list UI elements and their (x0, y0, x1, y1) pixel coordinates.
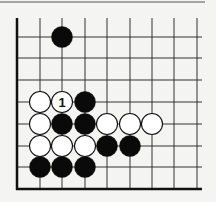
black-stone-icon (75, 92, 96, 113)
white-stone-icon (120, 114, 141, 135)
white-stone-icon (97, 114, 118, 135)
white-stone-icon (30, 114, 51, 135)
white-stone-numbered: 1 (52, 92, 73, 113)
white-stone-icon (75, 136, 96, 157)
black-stone (75, 114, 96, 135)
white-stone (52, 136, 73, 157)
white-stone-icon (52, 136, 73, 157)
black-stone (52, 114, 73, 135)
black-stone-icon (52, 27, 73, 48)
black-stone-icon (52, 114, 73, 135)
white-stone (30, 114, 51, 135)
black-stone (30, 157, 51, 178)
move-number-label: 1 (58, 95, 65, 110)
black-stone-icon (75, 157, 96, 178)
black-stone (52, 27, 73, 48)
white-stone (30, 136, 51, 157)
white-stone-icon (30, 136, 51, 157)
black-stone (120, 136, 141, 157)
white-stone-icon (30, 92, 51, 113)
black-stone (75, 157, 96, 178)
white-stone (97, 114, 118, 135)
black-stone (97, 136, 118, 157)
white-stone (120, 114, 141, 135)
black-stone-icon (30, 157, 51, 178)
black-stone-icon (75, 114, 96, 135)
white-stone (30, 92, 51, 113)
black-stone (75, 92, 96, 113)
black-stone-icon (120, 136, 141, 157)
white-stone-icon (142, 114, 163, 135)
black-stone (52, 157, 73, 178)
white-stone (142, 114, 163, 135)
black-stone-icon (52, 157, 73, 178)
black-stone-icon (97, 136, 118, 157)
go-board-diagram: 1 (0, 0, 216, 202)
white-stone (75, 136, 96, 157)
